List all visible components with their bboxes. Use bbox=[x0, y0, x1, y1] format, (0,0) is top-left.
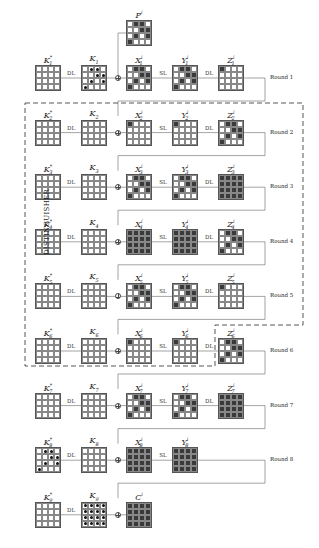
round-label-5: Round 5 bbox=[270, 292, 293, 298]
grid-cell bbox=[237, 139, 243, 145]
key-grid-9 bbox=[81, 502, 107, 528]
distinguisher-label: DISTINGUISHER bbox=[43, 189, 51, 255]
grid-cell bbox=[191, 193, 197, 199]
grid-cell bbox=[237, 248, 243, 254]
dl-op-label: DL bbox=[205, 288, 213, 294]
key-grid-8-label: K8 bbox=[89, 436, 98, 447]
y-grid-6-label: Yi6 bbox=[181, 327, 188, 339]
x-grid-8-label: Xi8 bbox=[135, 436, 143, 448]
kstar-grid-6-label: K*6 bbox=[44, 327, 53, 339]
y-grid-1-label: Yi1 bbox=[181, 54, 188, 66]
grid-cell bbox=[54, 193, 60, 199]
z-grid-6-label: Zi6 bbox=[227, 327, 234, 339]
kstar-grid-7-label: K*7 bbox=[44, 382, 53, 394]
grid-cell bbox=[100, 139, 106, 145]
grid-cell bbox=[145, 193, 151, 199]
z-grid-4 bbox=[218, 229, 244, 255]
dl-op-label: DL bbox=[67, 70, 75, 76]
kstar-grid-1 bbox=[35, 65, 61, 91]
key-grid-5-label: K5 bbox=[89, 272, 98, 283]
key-grid-3-label: K3 bbox=[89, 163, 98, 174]
z-grid-5 bbox=[218, 283, 244, 309]
grid-cell bbox=[145, 84, 151, 90]
kstar-grid-2-label: K*2 bbox=[44, 109, 53, 121]
x-grid-8 bbox=[126, 447, 152, 473]
z-grid-2-label: Zi2 bbox=[227, 109, 234, 121]
key-grid-8 bbox=[81, 447, 107, 473]
plaintext-grid-label: Pi bbox=[136, 9, 143, 20]
y-grid-6 bbox=[172, 338, 198, 364]
x-grid-2-label: Xi2 bbox=[135, 109, 143, 121]
key-grid-9-label: K9 bbox=[89, 491, 98, 502]
grid-cell bbox=[100, 84, 106, 90]
grid-cell bbox=[237, 412, 243, 418]
grid-cell bbox=[54, 357, 60, 363]
grid-cell bbox=[100, 248, 106, 254]
dl-op-label: DL bbox=[205, 179, 213, 185]
grid-cell bbox=[54, 521, 60, 527]
y-grid-3 bbox=[172, 174, 198, 200]
x-grid-4 bbox=[126, 229, 152, 255]
grid-cell bbox=[237, 302, 243, 308]
z-grid-7 bbox=[218, 393, 244, 419]
round-label-4: Round 4 bbox=[270, 238, 293, 244]
grid-cell bbox=[54, 248, 60, 254]
grid-cell bbox=[54, 466, 60, 472]
grid-cell bbox=[237, 193, 243, 199]
grid-cell bbox=[191, 412, 197, 418]
z-grid-7-label: Zi7 bbox=[227, 382, 234, 394]
grid-cell bbox=[100, 412, 106, 418]
round-label-3: Round 3 bbox=[270, 183, 293, 189]
dl-op-label: DL bbox=[67, 507, 75, 513]
x-grid-2 bbox=[126, 120, 152, 146]
kstar-grid-5 bbox=[35, 283, 61, 309]
kstar-grid-7 bbox=[35, 393, 61, 419]
grid-cell bbox=[145, 139, 151, 145]
kstar-grid-8-label: K*8 bbox=[44, 436, 53, 448]
dl-op-label: DL bbox=[67, 288, 75, 294]
y-grid-5 bbox=[172, 283, 198, 309]
grid-cell bbox=[145, 412, 151, 418]
dl-op-label: DL bbox=[67, 179, 75, 185]
dl-op-label: DL bbox=[67, 343, 75, 349]
z-grid-1 bbox=[218, 65, 244, 91]
y-grid-2-label: Yi2 bbox=[181, 109, 188, 121]
z-grid-4-label: Zi4 bbox=[227, 218, 234, 230]
kstar-grid-9-label: K*9 bbox=[44, 491, 53, 503]
dl-op-label: DL bbox=[67, 234, 75, 240]
x-grid-5-label: Xi5 bbox=[135, 272, 143, 284]
diagram-canvas: PiK*1K1Xi1Yi1Zi1DLSLDLRound 1K*2K2Xi2Yi2… bbox=[0, 0, 319, 548]
dl-op-label: DL bbox=[67, 452, 75, 458]
dl-op-label: DL bbox=[205, 398, 213, 404]
x-grid-3 bbox=[126, 174, 152, 200]
y-grid-8-label: Yi8 bbox=[181, 436, 188, 448]
dl-op-label: DL bbox=[205, 70, 213, 76]
grid-cell bbox=[145, 521, 151, 527]
dl-op-label: DL bbox=[67, 398, 75, 404]
key-grid-1-label: K1 bbox=[89, 54, 98, 65]
x-grid-4-label: Xi4 bbox=[135, 218, 143, 230]
grid-cell bbox=[100, 193, 106, 199]
kstar-grid-6 bbox=[35, 338, 61, 364]
y-grid-3-label: Yi3 bbox=[181, 163, 188, 175]
ciphertext-grid-label: Ci bbox=[135, 491, 143, 502]
z-grid-5-label: Zi5 bbox=[227, 272, 234, 284]
y-grid-5-label: Yi5 bbox=[181, 272, 188, 284]
sl-op-label: SL bbox=[159, 179, 166, 185]
ciphertext-grid bbox=[126, 502, 152, 528]
plaintext-grid bbox=[126, 20, 152, 46]
dl-op-label: DL bbox=[205, 125, 213, 131]
grid-cell bbox=[237, 357, 243, 363]
grid-cell bbox=[145, 466, 151, 472]
dl-op-label: DL bbox=[205, 343, 213, 349]
grid-cell bbox=[191, 357, 197, 363]
key-grid-2 bbox=[81, 120, 107, 146]
x-grid-3-label: Xi3 bbox=[135, 163, 143, 175]
grid-cell bbox=[191, 248, 197, 254]
kstar-grid-2 bbox=[35, 120, 61, 146]
sl-op-label: SL bbox=[159, 343, 166, 349]
x-grid-1 bbox=[126, 65, 152, 91]
x-grid-6 bbox=[126, 338, 152, 364]
key-grid-4 bbox=[81, 229, 107, 255]
key-grid-6-label: K6 bbox=[89, 327, 98, 338]
